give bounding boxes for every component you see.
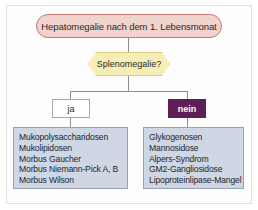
- outcome-list-yes: Mukopolysaccharidosen Mukolipidosen Morb…: [19, 132, 122, 186]
- connector-to-branch-yes: [70, 91, 71, 99]
- connector-root-to-decision: [128, 38, 129, 52]
- branch-no-text: nein: [178, 104, 197, 114]
- list-item: Mukolipidosen: [19, 143, 122, 154]
- outcome-list-no: Glykogenosen Mannosidose Alpers-Syndrom …: [149, 132, 238, 186]
- list-item: Morbus Gaucher: [19, 154, 122, 165]
- list-item: Glykogenosen: [149, 132, 238, 143]
- decision-node-splenomegalie: Splenomegalie?: [88, 52, 170, 76]
- connector-decision-stem: [128, 76, 129, 91]
- branch-yes-text: ja: [67, 104, 74, 114]
- list-item: Morbus Wilson: [19, 175, 122, 186]
- flowchart-page: Hepatomegalie nach dem 1. Lebensmonat Sp…: [0, 0, 258, 210]
- connector-yes-to-outcome: [70, 118, 71, 127]
- outcome-box-no: Glykogenosen Mannosidose Alpers-Syndrom …: [143, 127, 244, 189]
- connector-branch-bar: [70, 91, 187, 92]
- connector-no-to-outcome: [187, 118, 188, 127]
- list-item: Lipoproteinlipase-Mangel: [149, 175, 238, 186]
- branch-label-no: nein: [168, 99, 206, 118]
- root-node-hepatomegalie: Hepatomegalie nach dem 1. Lebensmonat: [36, 14, 222, 38]
- list-item: Alpers-Syndrom: [149, 154, 238, 165]
- connector-to-branch-no: [187, 91, 188, 99]
- list-item: Mukopolysaccharidosen: [19, 132, 122, 143]
- list-item: Mannosidose: [149, 143, 238, 154]
- root-node-label: Hepatomegalie nach dem 1. Lebensmonat: [41, 21, 216, 32]
- decision-node-label: Splenomegalie?: [88, 52, 170, 76]
- outcome-box-yes: Mukopolysaccharidosen Mukolipidosen Morb…: [13, 127, 128, 189]
- list-item: GM2-Gangliosidose: [149, 164, 238, 175]
- branch-label-yes: ja: [52, 99, 90, 118]
- list-item: Morbus Niemann-Pick A, B: [19, 164, 122, 175]
